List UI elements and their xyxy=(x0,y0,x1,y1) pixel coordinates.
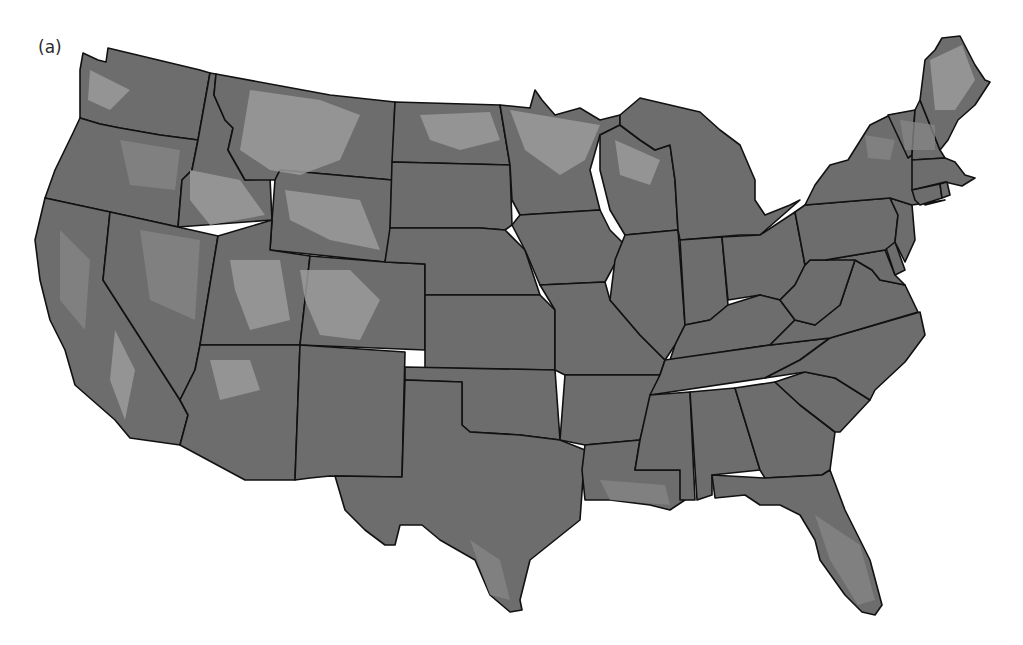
state-boundaries xyxy=(35,36,990,615)
state-south-dakota xyxy=(390,162,512,230)
state-kansas xyxy=(425,295,555,370)
us-elevation-map xyxy=(0,0,1023,645)
state-rhode-island xyxy=(940,182,950,198)
state-new-mexico xyxy=(295,345,405,480)
